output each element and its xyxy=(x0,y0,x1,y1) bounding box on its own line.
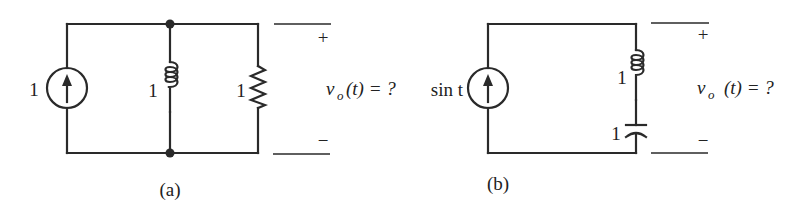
junction-dot-bottom xyxy=(166,149,175,158)
circuit-a-wires xyxy=(67,24,258,153)
voltage-var: v xyxy=(326,78,335,99)
circuit-a: 1 1 1 + − v o (t) = ? (a) xyxy=(29,20,396,202)
junction-dot-top xyxy=(166,20,175,29)
voltage-subscript: o xyxy=(708,87,715,102)
inductor-value-label: 1 xyxy=(617,67,627,88)
circuit-figure: 1 1 1 + − v o (t) = ? (a) xyxy=(0,0,811,212)
voltage-expression: (t) = ? xyxy=(346,78,396,100)
resistor-icon xyxy=(251,66,265,108)
plus-sign: + xyxy=(698,24,709,45)
caption-b: (b) xyxy=(487,173,509,195)
voltage-var: v xyxy=(697,77,706,98)
inductor-icon xyxy=(166,62,178,112)
current-source-icon xyxy=(47,68,87,108)
caption-a: (a) xyxy=(159,179,180,201)
minus-sign: − xyxy=(698,130,709,151)
voltage-expression: (t) = ? xyxy=(724,77,774,99)
inductor-icon xyxy=(632,50,644,100)
voltage-subscript: o xyxy=(337,88,344,103)
inductor-value-label: 1 xyxy=(148,80,158,101)
circuit-b: sin t 1 1 + − v o (t) = ? (b) xyxy=(431,23,774,195)
capacitor-value-label: 1 xyxy=(611,123,621,144)
minus-sign: − xyxy=(318,130,329,151)
source-value-text: sin t xyxy=(431,79,464,100)
source-value-label: 1 xyxy=(29,79,39,100)
plus-sign: + xyxy=(318,27,329,48)
source-value-label: sin t xyxy=(431,79,464,100)
current-source-icon xyxy=(468,68,508,108)
output-voltage-label-b: v o (t) = ? xyxy=(697,77,774,102)
output-voltage-label-a: v o (t) = ? xyxy=(326,78,396,103)
resistor-value-label: 1 xyxy=(236,80,246,101)
